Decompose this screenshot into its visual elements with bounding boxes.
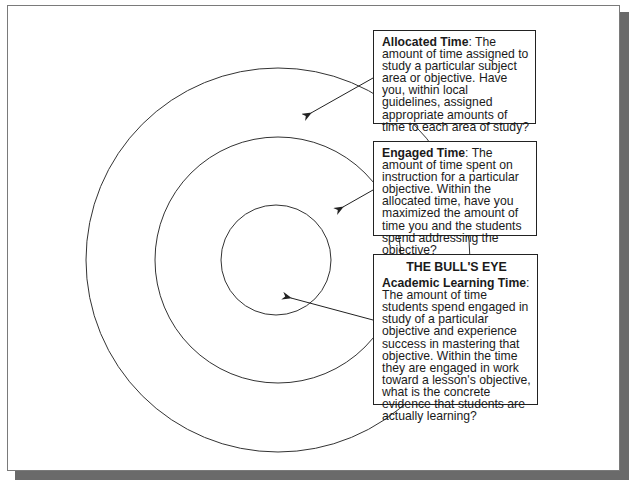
allocated-description: : The amount of time assigned to study a… [382, 35, 529, 134]
bullseye-callout: THE BULL'S EYE Academic Learning Time: T… [373, 254, 538, 405]
engaged-time-callout: Engaged Time: The amount of time spent o… [373, 141, 537, 236]
middle-ring-engaged [155, 137, 401, 383]
bullseye-description: : The amount of time students spend enga… [382, 276, 531, 423]
bullseye-arrow [291, 298, 373, 320]
engaged-arrow [343, 190, 373, 207]
bullseye-title: THE BULL'S EYE [382, 261, 531, 273]
allocated-arrow [311, 78, 373, 113]
inner-ring-bullseye [221, 205, 331, 315]
allocated-time-callout: Allocated Time: The amount of time assig… [373, 30, 536, 124]
target-diagram [0, 0, 631, 483]
